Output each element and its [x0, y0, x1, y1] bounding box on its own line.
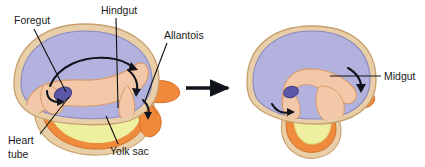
- embryo-development-diagram: Foregut Hindgut Allantois Heart tube Yol…: [0, 0, 425, 167]
- label-heart-tube-text-line1: Heart: [8, 134, 34, 146]
- label-yolk-sac-text: Yolk sac: [110, 145, 149, 157]
- label-hindgut-text: Hindgut: [101, 4, 137, 16]
- label-allantois-text: Allantois: [164, 29, 204, 41]
- label-foregut-text: Foregut: [14, 14, 50, 26]
- label-heart-tube-text-line2: tube: [8, 148, 29, 160]
- label-midgut-text: Midgut: [384, 70, 416, 82]
- panel-left-early-embryo: [14, 24, 180, 155]
- panel-right-later-embryo: [247, 26, 376, 158]
- figure-container: Foregut Hindgut Allantois Heart tube Yol…: [0, 0, 425, 167]
